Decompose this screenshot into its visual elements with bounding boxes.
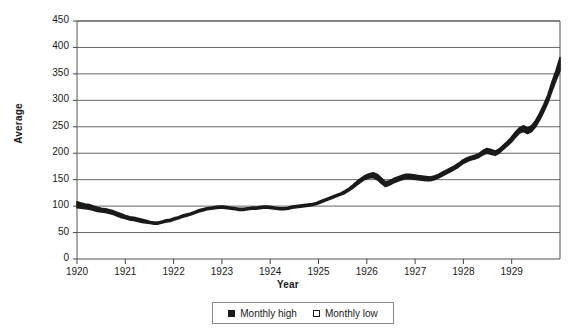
y-axis-tick-label: 200 xyxy=(33,146,69,157)
legend-item-monthly-low: Monthly low xyxy=(313,308,378,319)
open-square-icon xyxy=(313,310,320,317)
x-axis-tick-label: 1921 xyxy=(103,266,147,277)
chart-legend: Monthly high Monthly low xyxy=(212,302,394,324)
x-axis-tick-label: 1922 xyxy=(152,266,196,277)
y-axis-tick-label: 400 xyxy=(33,40,69,51)
y-axis-tick-label: 0 xyxy=(33,252,69,263)
x-axis-tick-label: 1929 xyxy=(490,266,534,277)
stock-average-chart: Average Year Monthly high Monthly low 05… xyxy=(0,0,576,334)
x-axis-tick-label: 1920 xyxy=(55,266,99,277)
y-axis-tick-label: 50 xyxy=(33,226,69,237)
x-axis-tick-label: 1927 xyxy=(393,266,437,277)
legend-label-monthly-high: Monthly high xyxy=(240,308,297,319)
y-axis-tick-label: 250 xyxy=(33,120,69,131)
y-axis-tick-label: 350 xyxy=(33,67,69,78)
legend-label-monthly-low: Monthly low xyxy=(325,308,378,319)
filled-square-icon xyxy=(228,310,235,317)
x-axis-tick-label: 1924 xyxy=(248,266,292,277)
y-axis-tick-label: 100 xyxy=(33,199,69,210)
x-axis-tick-label: 1923 xyxy=(200,266,244,277)
high-low-band xyxy=(77,57,560,224)
x-axis-title: Year xyxy=(0,279,576,290)
x-axis-tick-label: 1925 xyxy=(297,266,341,277)
y-axis-title: Average xyxy=(13,84,24,164)
y-axis-tick-label: 450 xyxy=(33,14,69,25)
y-axis-tick-label: 300 xyxy=(33,93,69,104)
x-axis-tick-label: 1926 xyxy=(345,266,389,277)
x-axis-tick-label: 1928 xyxy=(441,266,485,277)
y-axis-tick-label: 150 xyxy=(33,173,69,184)
legend-item-monthly-high: Monthly high xyxy=(228,308,297,319)
